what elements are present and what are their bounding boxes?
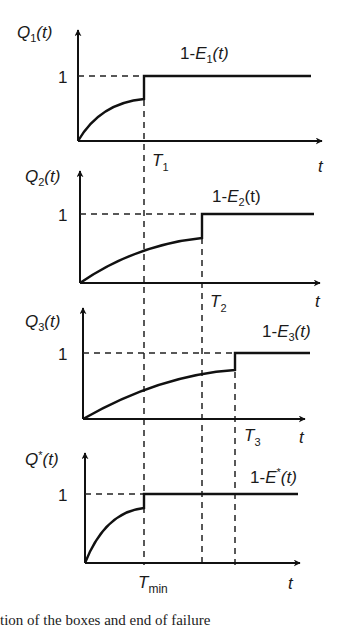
x-label-t: t [288,574,294,593]
panel-q3: Q3(t) 1 1-E3(t) T3 t [25,308,311,448]
x-label-t: t [315,292,321,311]
level-label: 1 [58,345,67,364]
y-label-q1: Q1(t) [17,23,52,44]
curve-q2 [80,214,314,283]
curve-label-1-e2: 1-E2(t) [212,187,261,208]
level-label: 1 [58,486,67,505]
level-label: 1 [58,206,67,225]
step-function-figure: Q1(t) 1 1-E1(t) T1 t Q2(t) 1 1-E2(t) T2 … [0,0,339,625]
y-label-q-star: Q*(t) [25,449,59,469]
level-label: 1 [58,68,67,87]
figure-caption-partial: tion of the boxes and end of failure [0,612,339,625]
x-label-t: t [318,157,324,176]
tick-label-t1: T1 [152,151,169,173]
panel-q2: Q2(t) 1 1-E2(t) T2 t [25,167,321,314]
curve-label-1-e1: 1-E1(t) [180,44,229,65]
tick-label-t3: T3 [244,426,261,448]
panel-q1: Q1(t) 1 1-E1(t) T1 t [17,23,324,176]
x-label-t: t [299,428,305,447]
curve-q3 [83,353,310,419]
y-label-q3: Q3(t) [25,312,60,333]
curve-label-1-e-star: 1-E*(t) [250,466,297,487]
curve-label-1-e3: 1-E3(t) [262,322,311,343]
tick-label-tmin: Tmin [138,573,168,596]
curve-q1 [78,76,311,141]
y-label-q2: Q2(t) [25,167,60,188]
panel-q-star: Q*(t) 1 1-E*(t) Tmin t [25,449,300,596]
curve-q-star [85,494,298,563]
tick-label-t2: T2 [210,292,227,314]
